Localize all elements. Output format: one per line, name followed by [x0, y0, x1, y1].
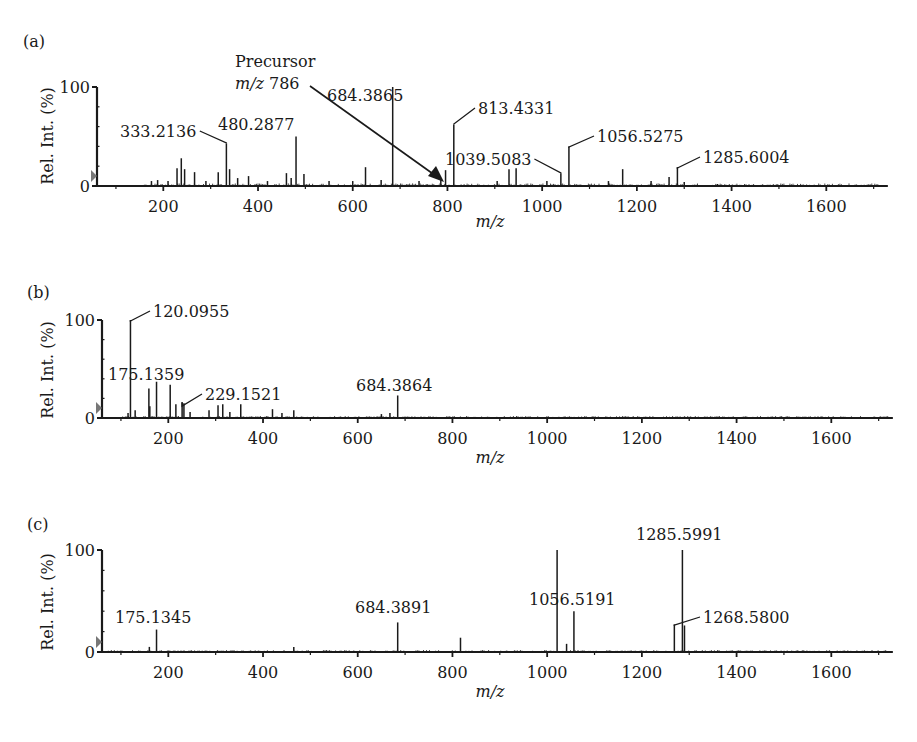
precursor-mz-italic: m/z	[235, 74, 265, 93]
peak-label: 1285.6004	[703, 148, 790, 167]
label-leader-line	[569, 136, 594, 147]
peak-label: 175.1345	[115, 608, 191, 627]
label-leader-line	[182, 394, 202, 406]
label-leader-line	[130, 311, 150, 321]
panel-letter-c: (c)	[27, 515, 48, 534]
x-tick-label: 1400	[711, 197, 752, 216]
label-leader-line	[677, 157, 700, 168]
peak-label: 684.3891	[355, 598, 431, 617]
x-tick-label: 400	[243, 197, 274, 216]
y-tick-label: 100	[59, 78, 90, 97]
y-axis-title-a: Rel. Int. (%)	[38, 87, 57, 185]
x-axis-title-b: m/z	[476, 448, 506, 467]
spectra-svg: (a) Rel. Int. (%) m/z Precursor m/z786 1…	[0, 0, 917, 742]
panel-c: (c) Rel. Int. (%) m/z 100020040060080010…	[27, 515, 893, 701]
x-tick-label: 200	[153, 429, 184, 448]
x-tick-label: 400	[248, 663, 279, 682]
label-leader-line	[534, 159, 560, 173]
y-tick-label: 0	[80, 177, 90, 196]
x-tick-label: 1200	[622, 429, 663, 448]
x-tick-label: 600	[337, 197, 368, 216]
y-axis-title-c: Rel. Int. (%)	[38, 553, 57, 651]
peak-label: 480.2877	[218, 115, 294, 134]
x-tick-label: 1200	[622, 663, 663, 682]
x-tick-label: 800	[437, 663, 468, 682]
x-tick-label: 1600	[811, 429, 852, 448]
peak-label: 1268.5800	[703, 608, 790, 627]
peak-label: 1056.5275	[597, 127, 684, 146]
x-tick-label: 1600	[811, 663, 852, 682]
precursor-label-line2: m/z786	[235, 74, 300, 93]
x-tick-label: 1200	[617, 197, 658, 216]
x-tick-label: 200	[148, 197, 179, 216]
precursor-label-line1: Precursor	[235, 52, 316, 71]
x-tick-label: 1000	[522, 197, 563, 216]
panel-b: (b) Rel. Int. (%) m/z 100020040060080010…	[27, 283, 893, 467]
x-tick-label: 800	[437, 429, 468, 448]
precursor-mz-value: 786	[269, 74, 300, 93]
y-tick-label: 0	[85, 643, 95, 662]
spectrum-plot-b: 10002004006008001000120014001600120.0955…	[64, 302, 892, 448]
peak-label: 1056.5191	[529, 590, 616, 609]
x-tick-label: 1000	[527, 663, 568, 682]
label-leader-line	[674, 617, 700, 625]
y-tick-label: 100	[64, 311, 95, 330]
x-axis-title-c: m/z	[476, 682, 506, 701]
spectrum-plot-a: 10002004006008001000120014001600333.2136…	[59, 78, 887, 216]
mass-spectra-figure: (a) Rel. Int. (%) m/z Precursor m/z786 1…	[0, 0, 917, 742]
spectrum-plot-c: 10002004006008001000120014001600175.1345…	[64, 525, 892, 682]
x-tick-label: 1400	[716, 429, 757, 448]
label-leader-line	[454, 108, 475, 125]
panel-letter-a: (a)	[23, 32, 45, 51]
peak-label: 229.1521	[205, 385, 281, 404]
x-tick-label: 800	[432, 197, 463, 216]
peak-label: 684.3864	[356, 376, 432, 395]
peak-label: 175.1359	[108, 365, 184, 384]
y-tick-label: 100	[64, 541, 95, 560]
panel-letter-b: (b)	[27, 283, 50, 302]
peak-label: 684.3865	[327, 86, 403, 105]
precursor-arrow-head-icon	[428, 166, 444, 182]
x-tick-label: 1400	[716, 663, 757, 682]
peak-label: 1039.5083	[445, 150, 532, 169]
x-tick-label: 600	[342, 663, 373, 682]
x-tick-label: 1000	[527, 429, 568, 448]
y-axis-title-b: Rel. Int. (%)	[38, 321, 57, 419]
x-tick-label: 600	[342, 429, 373, 448]
x-tick-label: 400	[248, 429, 279, 448]
peak-label: 120.0955	[153, 302, 229, 321]
peak-label: 1285.5991	[636, 525, 723, 544]
panel-a: (a) Rel. Int. (%) m/z Precursor m/z786 1…	[23, 32, 888, 231]
y-tick-label: 0	[85, 409, 95, 428]
peak-label: 333.2136	[120, 122, 196, 141]
x-tick-label: 1600	[806, 197, 847, 216]
x-tick-label: 200	[153, 663, 184, 682]
x-axis-title-a: m/z	[476, 212, 506, 231]
peak-label: 813.4331	[478, 99, 554, 118]
